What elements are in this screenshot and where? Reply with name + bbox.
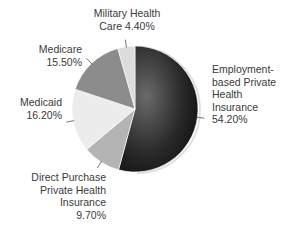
- leader-line-military-health-care: [125, 40, 126, 48]
- leader-line-medicare: [87, 58, 93, 64]
- label-employment-based-private: Employment- based Private Health Insuran…: [212, 63, 287, 126]
- label-medicaid: Medicaid 16.20%: [10, 96, 62, 121]
- label-military-health-care: Military Health Care 4.40%: [88, 7, 166, 32]
- label-medicare: Medicare 15.50%: [30, 43, 82, 68]
- label-direct-purchase-private: Direct Purchase Private Health Insurance…: [18, 171, 106, 221]
- leader-line-medicaid: [66, 121, 74, 122]
- leader-line-employment-based-private-health-insurance: [196, 117, 204, 118]
- leader-line-direct-purchase-private-health-insurance: [97, 161, 101, 168]
